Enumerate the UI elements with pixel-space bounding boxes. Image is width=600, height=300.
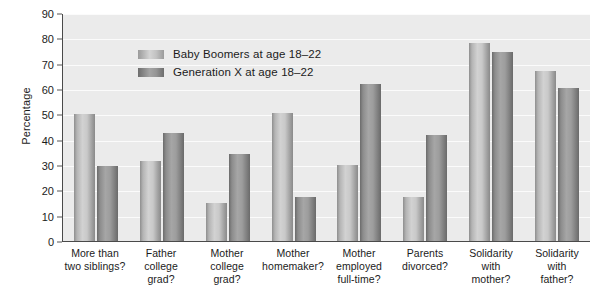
x-axis-labels: More thantwo siblings?Fathercollegegrad?… xyxy=(62,247,590,286)
y-axis-tick-label: 0 xyxy=(48,236,54,248)
bar xyxy=(163,133,184,241)
x-axis-category-label: Motherhomemaker? xyxy=(261,247,325,286)
x-axis-category-label: Motheremployedfull-time? xyxy=(327,247,391,286)
bar xyxy=(360,84,381,241)
bar-group xyxy=(469,14,513,241)
bar-chart: Percentage 0102030405060708090 Baby Boom… xyxy=(0,0,600,300)
x-axis-category-label: Mothercollegegrad? xyxy=(195,247,259,286)
bar xyxy=(97,166,118,241)
y-axis: 0102030405060708090 xyxy=(0,0,62,300)
y-axis-tick-label: 50 xyxy=(42,109,54,121)
legend-swatch-icon xyxy=(138,68,164,77)
y-axis-tick-label: 40 xyxy=(42,135,54,147)
legend-swatch-icon xyxy=(138,50,164,59)
bar-group xyxy=(74,14,118,241)
y-axis-tick-label: 30 xyxy=(42,160,54,172)
bar xyxy=(469,43,490,241)
bar xyxy=(535,71,556,241)
legend-item-label: Baby Boomers at age 18–22 xyxy=(173,48,321,60)
legend-item-label: Generation X at age 18–22 xyxy=(173,66,314,78)
y-axis-tick-label: 70 xyxy=(42,59,54,71)
bar xyxy=(426,135,447,241)
legend-item: Baby Boomers at age 18–22 xyxy=(138,48,321,60)
bar xyxy=(74,114,95,241)
y-axis-tick-label: 20 xyxy=(42,185,54,197)
bar xyxy=(272,113,293,241)
y-axis-tick-label: 80 xyxy=(42,33,54,45)
x-axis-category-label: Solidaritywithfather? xyxy=(525,247,589,286)
x-axis-category-label: Parentsdivorced? xyxy=(393,247,457,286)
bar xyxy=(403,197,424,241)
y-axis-tick-label: 60 xyxy=(42,84,54,96)
bar xyxy=(492,52,513,241)
bar xyxy=(206,203,227,241)
y-axis-tick-label: 90 xyxy=(42,8,54,20)
bar xyxy=(558,88,579,241)
chart-legend: Baby Boomers at age 18–22Generation X at… xyxy=(138,48,321,78)
bar-group xyxy=(535,14,579,241)
bar-group xyxy=(337,14,381,241)
bar xyxy=(337,165,358,241)
x-axis-category-label: Solidaritywithmother? xyxy=(459,247,523,286)
x-axis-category-label: Fathercollegegrad? xyxy=(129,247,193,286)
bar xyxy=(229,154,250,241)
x-axis-category-label: More thantwo siblings? xyxy=(63,247,127,286)
bar xyxy=(295,197,316,241)
legend-item: Generation X at age 18–22 xyxy=(138,66,321,78)
y-axis-tick-label: 10 xyxy=(42,211,54,223)
bar-group xyxy=(403,14,447,241)
bar xyxy=(140,161,161,241)
